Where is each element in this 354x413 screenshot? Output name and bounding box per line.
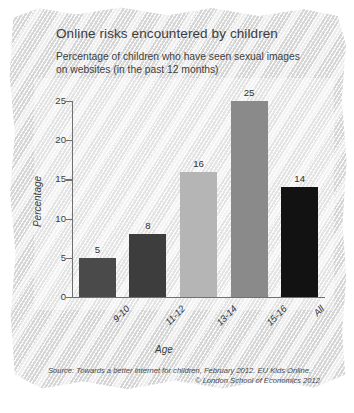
x-axis-tick-label: 15-16 — [264, 303, 289, 328]
bar — [79, 258, 116, 297]
bar — [129, 234, 166, 297]
bar-value-label: 8 — [119, 220, 176, 231]
x-axis-tick-label: 13-14 — [214, 303, 239, 328]
bar-series: 58162514 — [72, 101, 325, 297]
bar-value-label: 25 — [221, 87, 278, 98]
bar — [180, 172, 217, 297]
y-axis-tick-label: 20 — [32, 134, 66, 145]
source-line-2: © London School of Economics 2012 — [40, 376, 320, 386]
y-axis-tick-label: 5 — [32, 252, 66, 263]
y-axis-tick-label: 0 — [32, 291, 66, 302]
chart-page: Online risks encountered by children Per… — [0, 0, 354, 413]
source-note: Source: Towards a better internet for ch… — [40, 366, 320, 386]
x-axis-tick-label: 9-10 — [111, 303, 132, 324]
bar-chart: 0510152025 Percentage 58162514 9-1011-12… — [0, 0, 354, 413]
x-axis-line — [72, 297, 325, 298]
source-line-1: Source: Towards a better internet for ch… — [40, 366, 320, 376]
x-axis-tick-label: All — [311, 303, 326, 318]
bar-value-label: 16 — [170, 158, 227, 169]
x-axis-tick-label: 11-12 — [163, 303, 187, 327]
y-axis-tick-label: 25 — [32, 95, 66, 106]
x-axis-title: Age — [155, 344, 173, 355]
bar-value-label: 14 — [271, 173, 328, 184]
y-axis-tick-mark — [66, 297, 72, 298]
bar — [281, 187, 318, 297]
y-axis-title: Percentage — [32, 157, 43, 247]
bar — [231, 101, 268, 297]
bar-value-label: 5 — [69, 244, 126, 255]
